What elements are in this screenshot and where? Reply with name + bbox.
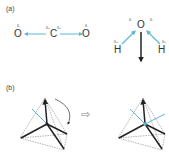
tetrahedron-left: [20, 98, 70, 150]
tetrahedron-right: [118, 98, 165, 150]
diagram-graphics: [0, 0, 169, 154]
h2o-dipole-arrows: [122, 31, 160, 61]
